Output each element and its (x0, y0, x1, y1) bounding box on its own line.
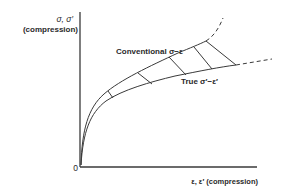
x-axis-label: ε, ε′ (compression) (191, 177, 258, 186)
true-curve-label: True σ′−ε′ (181, 77, 218, 86)
conventional-curve (81, 41, 206, 165)
tie-line (206, 41, 236, 65)
tie-line (169, 57, 186, 75)
conventional-curve-extension (206, 18, 223, 41)
y-axis-label-qualifier: (compression) (23, 25, 78, 34)
tie-line (138, 73, 152, 84)
tie-line (194, 47, 212, 69)
y-axis-label-symbols: σ, σ′ (56, 14, 73, 24)
stress-strain-diagram: σ, σ′ (compression) 0 ε, ε′ (compression… (0, 0, 289, 188)
tie-line (108, 91, 113, 98)
true-curve-extension (236, 59, 272, 65)
origin-label: 0 (73, 163, 78, 173)
conventional-curve-label: Conventional σ−ε (116, 47, 183, 56)
